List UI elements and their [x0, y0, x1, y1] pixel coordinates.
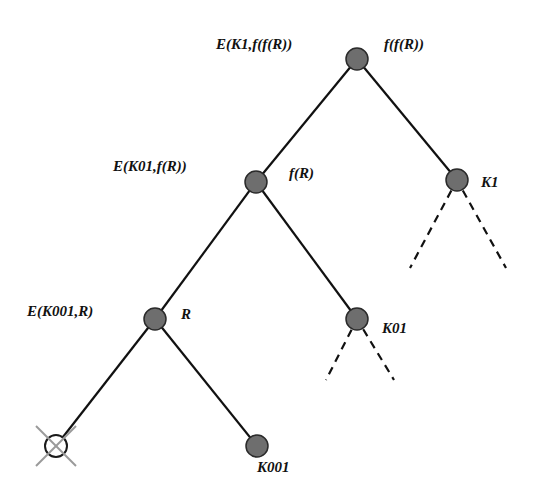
tree-nodes — [36, 48, 468, 466]
node-K01 — [346, 308, 368, 330]
K01-label: K01 — [382, 321, 407, 336]
node-K1 — [446, 169, 468, 191]
node-root — [346, 48, 368, 70]
dashed-stub-K1-1 — [457, 180, 506, 268]
root-left-label: E(K1,f(f(R)) — [216, 37, 292, 52]
edge-root-K1 — [357, 59, 457, 180]
edge-fR-K01 — [256, 182, 357, 319]
K1-label: K1 — [481, 175, 499, 190]
edge-fR-R — [155, 182, 256, 319]
R-right-label: R — [181, 307, 191, 322]
edge-root-fR — [256, 59, 357, 182]
node-K001 — [246, 435, 268, 457]
R-left-label: E(K001,R) — [27, 304, 93, 319]
K001-label: K001 — [257, 460, 290, 475]
tree-edges — [56, 59, 457, 446]
edge-R-K001 — [155, 319, 257, 446]
fR-right-label: f(R) — [289, 166, 314, 181]
fR-left-label: E(K01,f(R)) — [113, 159, 187, 174]
dashed-stub-K1-0 — [410, 180, 457, 268]
node-R — [144, 308, 166, 330]
dashed-subtree-stubs — [326, 180, 506, 380]
node-fR — [245, 171, 267, 193]
edge-R-crossed — [56, 319, 155, 446]
root-right-label: f(f(R)) — [384, 37, 424, 52]
tree-diagram — [0, 0, 534, 504]
